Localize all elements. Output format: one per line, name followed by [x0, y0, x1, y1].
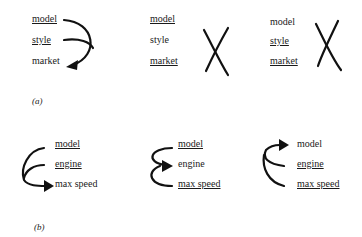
- a2-cross-stroke2: [206, 28, 228, 71]
- b2-arrowhead: [162, 160, 173, 172]
- b3-arrowhead: [279, 139, 289, 151]
- b1-arrowhead: [44, 180, 54, 192]
- connectors: [0, 0, 362, 237]
- b1-curve-engine: [24, 165, 44, 178]
- a1-arrowhead: [66, 60, 78, 70]
- a1-style-branch: [64, 39, 93, 48]
- b2-curve-bottom: [151, 166, 172, 186]
